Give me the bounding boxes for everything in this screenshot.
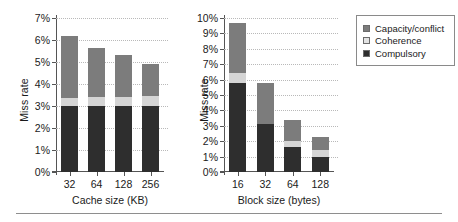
y-axis-tick-label: 5% [35, 56, 50, 68]
y-axis-tick-label: 10% [197, 12, 218, 24]
bar-segment-compulsory [257, 124, 274, 172]
chart-panel-block-size: Miss rate 0%1%2%3%4%5%6%7%8%9%10% 163264… [180, 0, 350, 200]
y-axis-tick-label: 6% [35, 34, 50, 46]
bar-slot: 16 [224, 18, 252, 172]
y-axis-title-left: Miss rate [18, 78, 30, 122]
legend-swatch-icon [363, 37, 370, 44]
bar-segment-coherence [115, 97, 132, 106]
plot-area-block-size: 0%1%2%3%4%5%6%7%8%9%10% 163264128 Block … [224, 18, 334, 172]
y-axis-tick-label: 1% [203, 151, 218, 163]
stacked-bar[interactable] [312, 137, 329, 172]
y-axis-tick-label: 4% [35, 78, 50, 90]
x-axis-tick [70, 172, 71, 176]
footer-rule [16, 213, 442, 214]
y-axis-tick-label: 2% [203, 135, 218, 147]
bar-segment-compulsory [115, 106, 132, 172]
bar-group-block-size: 163264128 [224, 18, 334, 172]
y-axis-tick-label: 6% [203, 74, 218, 86]
stacked-bar[interactable] [88, 48, 105, 172]
bar-segment-coherence [312, 150, 329, 157]
bar-segment-capacity-conflict [229, 23, 246, 73]
bar-slot: 128 [110, 18, 137, 172]
y-axis-tick-label: 3% [203, 120, 218, 132]
y-axis-tick-label: 5% [203, 89, 218, 101]
chart-panel-cache-size: Miss rate 0%1%2%3%4%5%6%7% 3264128256 Ca… [0, 0, 186, 200]
x-axis-tick [124, 172, 125, 176]
stacked-bar[interactable] [142, 64, 159, 172]
bar-slot: 32 [56, 18, 83, 172]
bar-segment-compulsory [88, 106, 105, 172]
x-axis-tick-label: 64 [279, 178, 307, 190]
plot-area-cache-size: 0%1%2%3%4%5%6%7% 3264128256 Cache size (… [56, 18, 164, 172]
stacked-bar[interactable] [229, 23, 246, 172]
y-axis-tick-label: 0% [203, 166, 218, 178]
bar-segment-capacity-conflict [257, 83, 274, 125]
bar-segment-compulsory [284, 147, 301, 172]
bar-slot: 128 [307, 18, 335, 172]
x-axis-tick-label: 16 [224, 178, 252, 190]
x-axis-tick [151, 172, 152, 176]
bar-segment-coherence [88, 97, 105, 106]
bar-segment-compulsory [61, 106, 78, 172]
bar-segment-capacity-conflict [284, 120, 301, 142]
legend-item-label: Compulsory [375, 48, 426, 59]
x-axis-tick-label: 128 [307, 178, 335, 190]
y-axis-tick-label: 4% [203, 104, 218, 116]
x-axis-tick [293, 172, 294, 176]
bar-slot: 64 [279, 18, 307, 172]
y-axis-tick-label: 0% [35, 166, 50, 178]
bar-segment-coherence [229, 73, 246, 83]
y-axis-tick [52, 172, 56, 173]
y-axis-tick [220, 172, 224, 173]
legend-item-label: Coherence [375, 35, 421, 46]
y-axis-tick-label: 7% [35, 12, 50, 24]
x-axis-tick-label: 32 [56, 178, 83, 190]
bar-slot: 32 [252, 18, 280, 172]
bar-segment-capacity-conflict [312, 137, 329, 150]
bar-segment-compulsory [142, 106, 159, 172]
bar-slot: 256 [137, 18, 164, 172]
bar-segment-compulsory [229, 83, 246, 172]
x-axis-title-left: Cache size (KB) [56, 194, 164, 206]
legend-item[interactable]: Capacity/conflict [363, 23, 449, 34]
y-axis-tick-label: 9% [203, 27, 218, 39]
legend: Capacity/conflictCoherenceCompulsory [356, 15, 455, 66]
y-axis-tick-label: 7% [203, 58, 218, 70]
y-axis-tick-label: 1% [35, 144, 50, 156]
stacked-bar[interactable] [115, 55, 132, 172]
y-axis-tick-label: 3% [35, 100, 50, 112]
bar-segment-capacity-conflict [88, 48, 105, 98]
bar-group-cache-size: 3264128256 [56, 18, 164, 172]
figure: Miss rate 0%1%2%3%4%5%6%7% 3264128256 Ca… [0, 0, 458, 222]
x-axis-tick-label: 32 [252, 178, 280, 190]
bar-segment-capacity-conflict [142, 64, 159, 96]
legend-item-label: Capacity/conflict [375, 23, 444, 34]
x-axis-tick [265, 172, 266, 176]
y-axis-tick-label: 2% [35, 122, 50, 134]
legend-swatch-icon [363, 50, 370, 57]
stacked-bar[interactable] [284, 120, 301, 172]
legend-swatch-icon [363, 25, 370, 32]
x-axis-tick-label: 64 [83, 178, 110, 190]
legend-item[interactable]: Compulsory [363, 48, 449, 59]
bar-segment-compulsory [312, 157, 329, 172]
stacked-bar[interactable] [61, 36, 78, 172]
x-axis-tick [97, 172, 98, 176]
x-axis-tick [238, 172, 239, 176]
bar-segment-capacity-conflict [115, 55, 132, 97]
bar-segment-coherence [142, 96, 159, 106]
bar-segment-capacity-conflict [61, 36, 78, 99]
x-axis-tick [320, 172, 321, 176]
x-axis-title-right: Block size (bytes) [224, 194, 334, 206]
x-axis-tick-label: 256 [137, 178, 164, 190]
bar-segment-coherence [61, 98, 78, 106]
x-axis-tick-label: 128 [110, 178, 137, 190]
stacked-bar[interactable] [257, 83, 274, 172]
bar-slot: 64 [83, 18, 110, 172]
y-axis-tick-label: 8% [203, 43, 218, 55]
legend-item[interactable]: Coherence [363, 35, 449, 46]
